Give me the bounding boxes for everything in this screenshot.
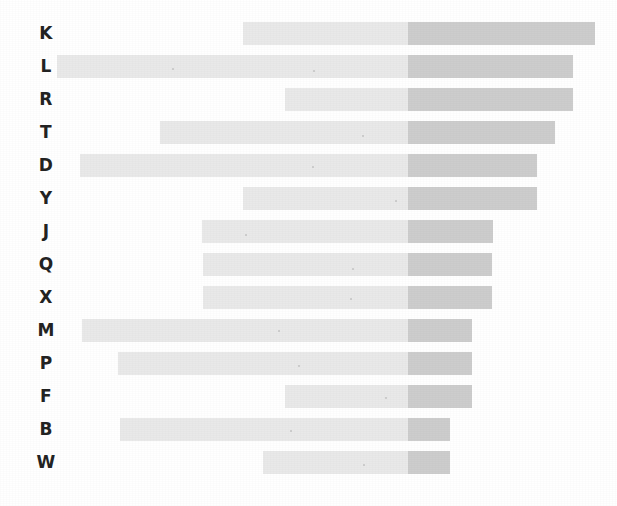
chart-row: Q [0, 253, 617, 276]
row-label-m: M [24, 322, 68, 339]
row-label-b: B [24, 421, 68, 438]
row-label-q: Q [24, 256, 68, 273]
bar-segment-dark [408, 451, 450, 474]
chart-root: KLRTDYJQXMPFBW [0, 0, 617, 506]
range-bar-w[interactable] [263, 451, 450, 474]
bar-segment-light [57, 55, 408, 78]
bar-segment-light [285, 88, 408, 111]
range-bar-p[interactable] [118, 352, 472, 375]
chart-row: T [0, 121, 617, 144]
row-label-p: P [24, 355, 68, 372]
bar-segment-dark [408, 22, 595, 45]
bar-segment-light [82, 319, 408, 342]
range-bar-j[interactable] [202, 220, 493, 243]
range-bar-r[interactable] [285, 88, 573, 111]
chart-row: Y [0, 187, 617, 210]
bar-segment-light [118, 352, 408, 375]
range-bar-m[interactable] [82, 319, 472, 342]
bar-segment-dark [408, 154, 537, 177]
row-label-f: F [24, 388, 68, 405]
chart-row: L [0, 55, 617, 78]
range-bar-f[interactable] [285, 385, 472, 408]
bar-segment-dark [408, 352, 472, 375]
bar-segment-dark [408, 55, 573, 78]
chart-row: R [0, 88, 617, 111]
chart-row: D [0, 154, 617, 177]
row-label-j: J [24, 223, 68, 240]
bar-segment-light [203, 286, 408, 309]
chart-row: F [0, 385, 617, 408]
chart-row: J [0, 220, 617, 243]
chart-row: X [0, 286, 617, 309]
range-bar-b[interactable] [120, 418, 450, 441]
range-bar-x[interactable] [203, 286, 492, 309]
range-bar-l[interactable] [57, 55, 573, 78]
row-label-r: R [24, 91, 68, 108]
chart-row: K [0, 22, 617, 45]
bar-segment-light [202, 220, 408, 243]
bar-segment-light [120, 418, 408, 441]
chart-row: W [0, 451, 617, 474]
bar-segment-light [80, 154, 408, 177]
range-bar-y[interactable] [243, 187, 537, 210]
bar-segment-light [285, 385, 408, 408]
bar-segment-dark [408, 121, 555, 144]
bar-segment-dark [408, 286, 492, 309]
bar-segment-dark [408, 253, 492, 276]
range-bar-d[interactable] [80, 154, 537, 177]
bar-segment-dark [408, 319, 472, 342]
bar-segment-light [203, 253, 408, 276]
bar-segment-light [263, 451, 408, 474]
range-bar-t[interactable] [160, 121, 555, 144]
bar-segment-dark [408, 187, 537, 210]
bar-segment-dark [408, 220, 493, 243]
row-label-y: Y [24, 190, 68, 207]
bar-segment-dark [408, 385, 472, 408]
row-label-x: X [24, 289, 68, 306]
plot-area: KLRTDYJQXMPFBW [0, 0, 617, 506]
chart-row: B [0, 418, 617, 441]
chart-row: M [0, 319, 617, 342]
range-bar-q[interactable] [203, 253, 492, 276]
bar-segment-dark [408, 88, 573, 111]
bar-segment-dark [408, 418, 450, 441]
bar-segment-light [243, 22, 408, 45]
row-label-k: K [24, 25, 68, 42]
row-label-d: D [24, 157, 68, 174]
chart-row: P [0, 352, 617, 375]
row-label-t: T [24, 124, 68, 141]
range-bar-k[interactable] [243, 22, 595, 45]
bar-segment-light [243, 187, 408, 210]
row-label-w: W [24, 454, 68, 471]
bar-segment-light [160, 121, 408, 144]
